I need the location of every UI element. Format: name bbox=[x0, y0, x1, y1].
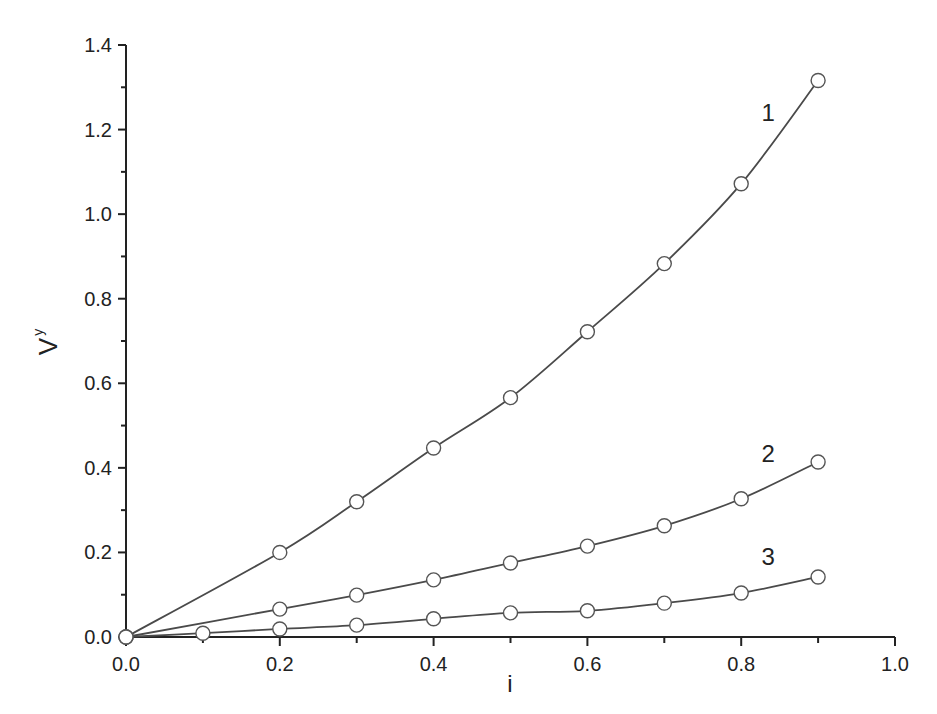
y-axis-label: Vy bbox=[30, 329, 63, 355]
series-line bbox=[126, 81, 818, 637]
data-point-marker bbox=[350, 588, 364, 602]
data-point-marker bbox=[427, 573, 441, 587]
series-2: 2 bbox=[119, 440, 825, 644]
series-group: 123 bbox=[119, 74, 825, 644]
y-tick-label: 1.0 bbox=[84, 203, 112, 225]
data-point-marker bbox=[350, 618, 364, 632]
data-point-marker bbox=[580, 325, 594, 339]
x-tick-label: 0.6 bbox=[573, 653, 601, 675]
y-axis-label-main: V bbox=[33, 337, 63, 355]
y-tick-label: 0.6 bbox=[84, 372, 112, 394]
chart: 0.00.20.40.60.81.01.21.40.00.20.40.60.81… bbox=[0, 0, 937, 714]
data-point-marker bbox=[350, 495, 364, 509]
x-tick-label: 1.0 bbox=[881, 653, 909, 675]
data-point-marker bbox=[734, 177, 748, 191]
x-tick-label: 0.2 bbox=[266, 653, 294, 675]
x-tick-label: 0.4 bbox=[420, 653, 448, 675]
y-tick-label: 1.4 bbox=[84, 34, 112, 56]
axes: 0.00.20.40.60.81.01.21.40.00.20.40.60.81… bbox=[84, 34, 909, 675]
y-tick-label: 0.0 bbox=[84, 626, 112, 648]
data-point-marker bbox=[196, 626, 210, 640]
data-point-marker bbox=[427, 612, 441, 626]
x-tick-label: 0.8 bbox=[727, 653, 755, 675]
data-point-marker bbox=[811, 74, 825, 88]
data-point-marker bbox=[273, 622, 287, 636]
series-line bbox=[126, 577, 818, 637]
series-label: 1 bbox=[761, 99, 774, 126]
data-point-marker bbox=[811, 455, 825, 469]
data-point-marker bbox=[811, 570, 825, 584]
data-point-marker bbox=[504, 606, 518, 620]
series-3: 3 bbox=[119, 543, 825, 644]
data-point-marker bbox=[580, 539, 594, 553]
series-label: 3 bbox=[761, 543, 774, 570]
data-point-marker bbox=[657, 519, 671, 533]
data-point-marker bbox=[734, 492, 748, 506]
data-point-marker bbox=[273, 545, 287, 559]
series-1: 1 bbox=[119, 74, 825, 644]
data-point-marker bbox=[657, 596, 671, 610]
data-point-marker bbox=[580, 604, 594, 618]
data-point-marker bbox=[734, 586, 748, 600]
y-tick-label: 1.2 bbox=[84, 119, 112, 141]
y-tick-label: 0.2 bbox=[84, 541, 112, 563]
x-tick-label: 0.0 bbox=[112, 653, 140, 675]
series-line bbox=[126, 462, 818, 637]
data-point-marker bbox=[504, 556, 518, 570]
data-point-marker bbox=[427, 441, 441, 455]
y-axis-label-subscript: y bbox=[30, 329, 46, 336]
series-label: 2 bbox=[761, 440, 774, 467]
data-point-marker bbox=[119, 630, 133, 644]
data-point-marker bbox=[657, 257, 671, 271]
svg-text:Vy: Vy bbox=[30, 329, 63, 355]
data-point-marker bbox=[504, 391, 518, 405]
y-tick-label: 0.4 bbox=[84, 457, 112, 479]
x-axis-label: i bbox=[507, 670, 512, 697]
data-point-marker bbox=[273, 602, 287, 616]
y-tick-label: 0.8 bbox=[84, 288, 112, 310]
